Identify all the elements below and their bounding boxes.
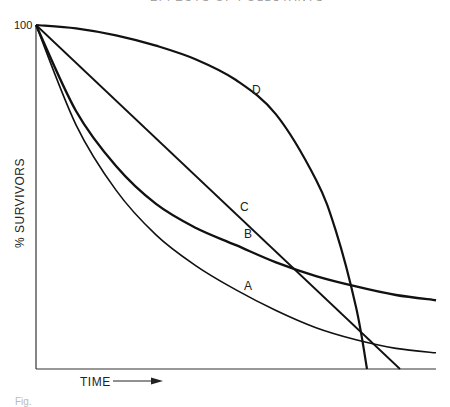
curve-c <box>36 25 400 369</box>
curve-d <box>36 25 367 369</box>
curve-label-b: B <box>244 227 252 241</box>
curve-labels: ABCD <box>240 83 261 293</box>
figure-caption: Fig. <box>15 396 32 407</box>
curve-label-c: C <box>240 200 249 214</box>
time-arrow-icon <box>113 378 163 385</box>
curve-a <box>36 25 436 353</box>
curve-b <box>36 25 436 300</box>
curve-label-a: A <box>244 279 252 293</box>
x-axis-title: TIME <box>80 375 111 389</box>
y-axis-title: % SURVIVORS <box>13 158 27 248</box>
curve-label-d: D <box>252 83 261 97</box>
y-tick-100: 100 <box>14 19 32 31</box>
chart-axes <box>36 25 436 369</box>
survival-curves <box>36 25 436 369</box>
